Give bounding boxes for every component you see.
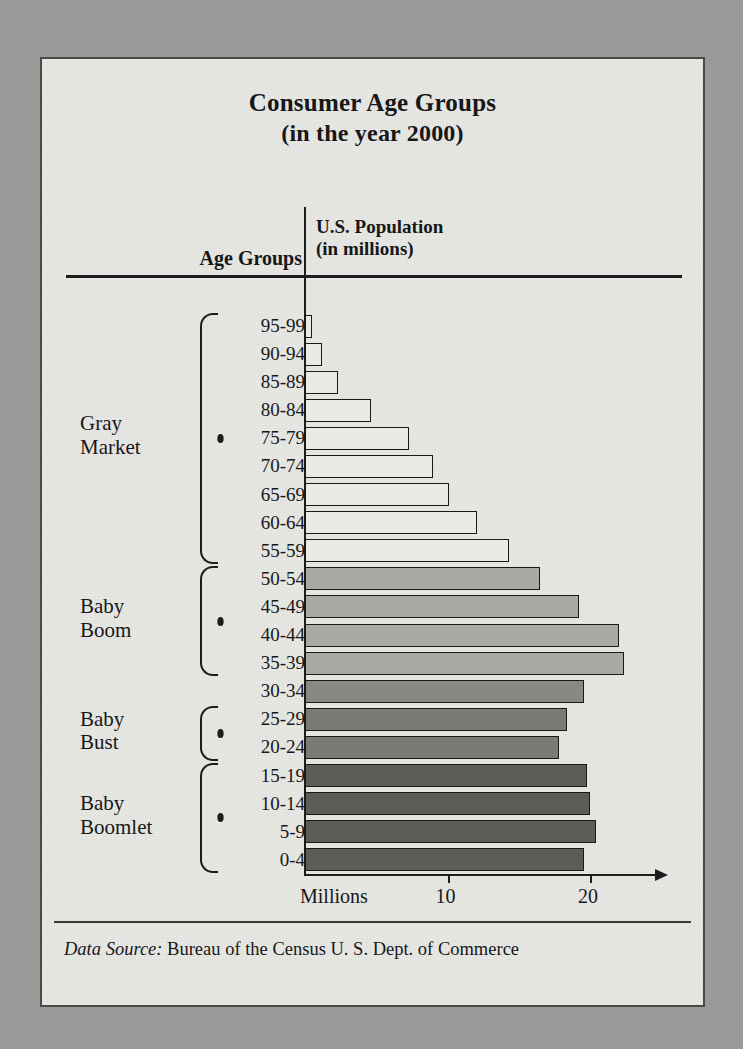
bar-row: 35-39 — [42, 649, 703, 677]
bar-70-74 — [305, 455, 433, 478]
group-label-line-2: Boomlet — [80, 816, 152, 840]
bar-95-99 — [305, 315, 312, 338]
bar-row: 55-59 — [42, 537, 703, 565]
x-tick-label: 10 — [436, 885, 456, 908]
bar-60-64 — [305, 511, 477, 534]
bar-0-4 — [305, 848, 584, 871]
bar-10-14 — [305, 792, 590, 815]
bar-35-39 — [305, 652, 624, 675]
group-label-baby-bust: BabyBust — [80, 708, 124, 756]
footer-source-text: Bureau of the Census U. S. Dept. of Comm… — [167, 939, 519, 959]
bar-row: 20-24 — [42, 733, 703, 761]
bar-55-59 — [305, 539, 509, 562]
page-background: Consumer Age Groups (in the year 2000) A… — [0, 0, 743, 1049]
bar-50-54 — [305, 567, 540, 590]
bar-45-49 — [305, 595, 579, 618]
x-axis-line — [304, 874, 659, 876]
x-tick — [448, 874, 450, 883]
bar-row: 15-19 — [42, 762, 703, 790]
bar-75-79 — [305, 427, 409, 450]
bar-row: 0-4 — [42, 846, 703, 874]
age-group-label: 30-34 — [185, 679, 305, 703]
bar-25-29 — [305, 708, 567, 731]
bar-30-34 — [305, 680, 584, 703]
group-label-line-1: Gray — [80, 412, 141, 436]
footer-source-label: Data Source: — [64, 939, 162, 959]
bar-row: 50-54 — [42, 565, 703, 593]
bar-65-69 — [305, 483, 449, 506]
group-label-baby-boom: BabyBoom — [80, 595, 131, 643]
bar-row: 30-34 — [42, 677, 703, 705]
footer-divider — [54, 921, 691, 923]
group-label-line-1: Baby — [80, 595, 131, 619]
bracket-icon — [200, 706, 218, 760]
group-label-baby-boomlet: BabyBoomlet — [80, 792, 152, 840]
group-label-line-1: Baby — [80, 708, 124, 732]
footer-source: Data Source: Bureau of the Census U. S. … — [64, 939, 684, 960]
bar-row: 60-64 — [42, 509, 703, 537]
bar-row: 65-69 — [42, 481, 703, 509]
bracket-icon — [200, 763, 218, 873]
group-label-line-2: Boom — [80, 619, 131, 643]
bar-row: 40-44 — [42, 621, 703, 649]
bar-85-89 — [305, 371, 338, 394]
bar-row: 85-89 — [42, 368, 703, 396]
bar-90-94 — [305, 343, 322, 366]
bar-20-24 — [305, 736, 559, 759]
chart-frame: Consumer Age Groups (in the year 2000) A… — [40, 57, 705, 1007]
bar-row: 80-84 — [42, 396, 703, 424]
x-tick-label: 20 — [578, 885, 598, 908]
group-label-line-2: Market — [80, 436, 141, 460]
group-label-line-1: Baby — [80, 792, 152, 816]
bar-row: 25-29 — [42, 705, 703, 733]
bar-40-44 — [305, 624, 619, 647]
x-tick — [590, 874, 592, 883]
bar-row: 70-74 — [42, 452, 703, 480]
x-axis-caption: Millions — [300, 885, 368, 908]
bar-row: 95-99 — [42, 312, 703, 340]
bracket-icon — [200, 566, 218, 676]
group-label-line-2: Bust — [80, 731, 124, 755]
chart-plot-area: 95-9990-9485-8980-8475-7970-7465-6960-64… — [42, 59, 703, 1005]
group-label-gray-market: GrayMarket — [80, 412, 141, 460]
bar-row: 45-49 — [42, 593, 703, 621]
bar-row: 90-94 — [42, 340, 703, 368]
bar-80-84 — [305, 399, 371, 422]
x-axis-arrow-icon — [655, 869, 668, 881]
bar-row: 75-79 — [42, 424, 703, 452]
bar-15-19 — [305, 764, 587, 787]
bar-rows: 95-9990-9485-8980-8475-7970-7465-6960-64… — [42, 312, 703, 874]
bar-5-9 — [305, 820, 596, 843]
bracket-icon — [200, 313, 218, 564]
